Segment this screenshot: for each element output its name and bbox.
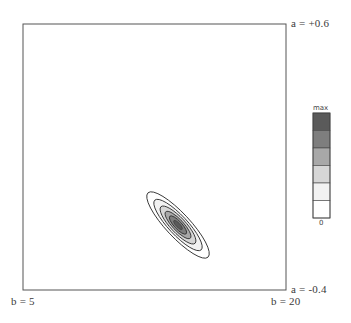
legend-band-2 xyxy=(313,131,330,149)
legend-band-5 xyxy=(313,183,330,201)
legend-band-4 xyxy=(313,166,330,184)
a-max-label: a = +0.6 xyxy=(291,17,329,29)
legend-band-1 xyxy=(313,113,330,131)
b-max-label: b = 20 xyxy=(271,295,300,307)
plot-frame xyxy=(23,24,286,290)
a-min-label: a = -0.4 xyxy=(291,283,327,295)
legend-band-3 xyxy=(313,148,330,166)
legend-colorbar xyxy=(313,113,330,218)
legend-band-6 xyxy=(313,201,330,219)
contour-plot xyxy=(0,0,351,323)
legend-zero-label: 0 xyxy=(319,219,323,227)
legend-max-label: max xyxy=(313,104,328,112)
b-min-label: b = 5 xyxy=(11,295,35,307)
